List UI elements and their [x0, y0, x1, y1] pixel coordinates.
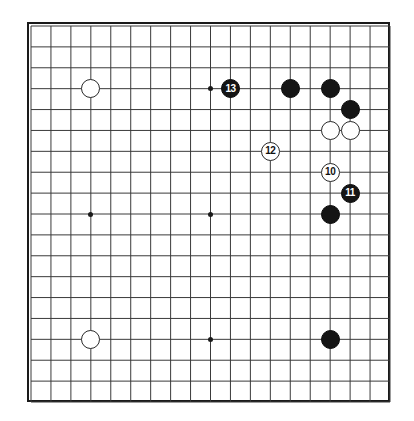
stone-move-number: 10 — [325, 167, 335, 177]
numbered-stone-12[interactable]: 12 — [261, 142, 280, 161]
numbered-stone-11[interactable]: 11 — [341, 184, 360, 203]
star-point — [208, 337, 213, 342]
white-stone[interactable] — [81, 79, 100, 98]
stone-move-number: 12 — [265, 146, 275, 156]
stone-layer: 13121011 — [29, 24, 392, 404]
black-stone[interactable] — [281, 79, 300, 98]
black-stone[interactable] — [321, 79, 340, 98]
white-stone[interactable] — [81, 330, 100, 349]
white-stone[interactable] — [321, 121, 340, 140]
go-board[interactable]: 13121011 — [27, 22, 390, 402]
stone-move-number: 11 — [345, 188, 355, 198]
star-point — [208, 212, 213, 217]
numbered-stone-13[interactable]: 13 — [221, 79, 240, 98]
go-board-diagram: 13121011 — [0, 0, 414, 421]
black-stone[interactable] — [341, 100, 360, 119]
numbered-stone-10[interactable]: 10 — [321, 163, 340, 182]
white-stone[interactable] — [341, 121, 360, 140]
black-stone[interactable] — [321, 330, 340, 349]
star-point — [88, 212, 93, 217]
star-point — [208, 86, 213, 91]
stone-move-number: 13 — [225, 84, 235, 94]
black-stone[interactable] — [321, 205, 340, 224]
